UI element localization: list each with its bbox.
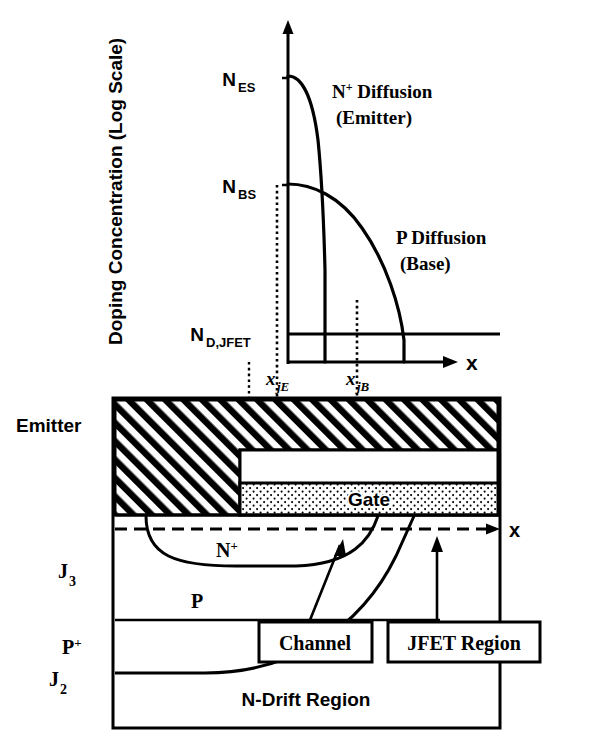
n-plus-diffusion-label-line1: N+ Diffusion xyxy=(332,80,433,102)
p-diffusion-label-line2: (Base) xyxy=(400,253,451,275)
x-axis-arrowhead xyxy=(443,356,458,368)
level-label-nbs: N BS xyxy=(222,176,256,202)
p-diffusion-label-line1: P Diffusion xyxy=(396,227,487,248)
level-label-nd-jfet: N D,JFET xyxy=(190,324,251,350)
j2-base: J xyxy=(49,668,59,690)
gate-label: Gate xyxy=(348,489,390,510)
p-diffusion-label: P Diffusion (Base) xyxy=(396,227,487,275)
y-axis-label: Doping Concentration (Log Scale) xyxy=(105,38,126,345)
x-axis-label: x xyxy=(466,351,478,374)
semiconductor-doping-figure: Doping Concentration (Log Scale) N ES N … xyxy=(0,0,612,754)
pplus-base: P xyxy=(62,636,74,658)
n-plus-diffusion-curve xyxy=(288,76,325,362)
nplus-base: N xyxy=(216,539,231,561)
p-plus-label: P+ xyxy=(62,635,82,659)
xje-base: x xyxy=(265,368,276,389)
doping-profile-plot: Doping Concentration (Log Scale) N ES N … xyxy=(105,20,500,394)
cross-section-x-label: x xyxy=(509,519,520,541)
channel-callout-label: Channel xyxy=(279,632,352,654)
j2-label: J 2 xyxy=(49,668,67,697)
j3-subscript: 3 xyxy=(69,574,76,589)
npd-n: N xyxy=(332,81,346,102)
npd-rest: Diffusion xyxy=(353,81,433,102)
j2-subscript: 2 xyxy=(60,682,67,697)
nbs-subscript: BS xyxy=(238,187,256,202)
p-label: P xyxy=(191,590,203,612)
nes-base: N xyxy=(222,69,236,90)
xje-subscript: jE xyxy=(275,379,290,394)
level-label-nes: N ES xyxy=(222,69,255,95)
y-axis-arrowhead xyxy=(283,20,294,34)
jfet-callout-label: JFET Region xyxy=(407,632,521,655)
emitter-label: Emitter xyxy=(16,415,82,436)
n-plus-diffusion-label: N+ Diffusion (Emitter) xyxy=(332,80,433,129)
pplus-sup: + xyxy=(74,635,81,650)
ndjfet-subscript: D,JFET xyxy=(206,335,251,350)
figure-root: Doping Concentration (Log Scale) N ES N … xyxy=(0,0,612,754)
callout-channel[interactable]: Channel xyxy=(259,622,372,662)
xjb-base: x xyxy=(345,368,356,389)
device-cross-section: x Emitter N+ J 3 P P+ J 2 Gate N-Drift R… xyxy=(16,398,540,728)
nes-subscript: ES xyxy=(238,80,256,95)
nbs-base: N xyxy=(222,176,236,197)
callout-jfet-region[interactable]: JFET Region xyxy=(388,622,540,662)
n-plus-diffusion-label-line2: (Emitter) xyxy=(336,107,412,129)
j3-label: J 3 xyxy=(58,560,76,589)
ndjfet-base: N xyxy=(190,324,204,345)
nplus-sup: + xyxy=(230,538,237,553)
j3-base: J xyxy=(58,560,68,582)
n-drift-region-label: N-Drift Region xyxy=(242,689,371,710)
